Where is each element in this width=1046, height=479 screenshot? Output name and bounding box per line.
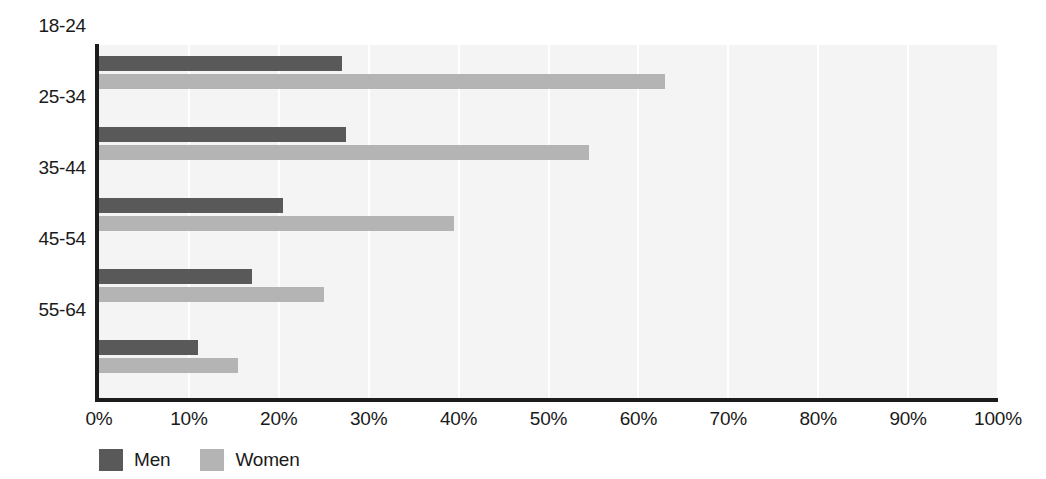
bar-group [99, 340, 998, 373]
bar-chart: 18-2425-3435-4445-5455-64 0%10%20%30%40%… [0, 0, 1046, 479]
bar-men-55-64[interactable] [99, 340, 198, 355]
bar-women-25-34[interactable] [99, 145, 589, 160]
x-tick-label-80: 80% [799, 408, 836, 430]
y-tick-label-25-34: 25-34 [6, 86, 86, 108]
y-tick-label-45-54: 45-54 [6, 228, 86, 250]
y-tick-label-55-64: 55-64 [6, 299, 86, 321]
y-axis-line [95, 44, 99, 402]
legend-swatch-women-icon [200, 449, 224, 471]
chart-legend: Men Women [99, 449, 300, 471]
x-tick-label-70: 70% [710, 408, 747, 430]
legend-item-women[interactable]: Women [200, 449, 299, 471]
bar-group [99, 127, 998, 160]
bar-men-45-54[interactable] [99, 269, 252, 284]
y-tick-label-35-44: 35-44 [6, 157, 86, 179]
bar-women-55-64[interactable] [99, 358, 238, 373]
legend-label-women: Women [235, 449, 299, 471]
bar-group [99, 198, 998, 231]
legend-item-men[interactable]: Men [99, 449, 170, 471]
plot-area [99, 45, 998, 400]
y-axis-tick-labels: 18-2425-3435-4445-5455-64 [0, 0, 86, 355]
bar-group [99, 56, 998, 89]
bar-men-25-34[interactable] [99, 127, 346, 142]
legend-label-men: Men [134, 449, 170, 471]
x-tick-label-0: 0% [85, 408, 112, 430]
x-tick-label-30: 30% [350, 408, 387, 430]
x-axis-line [95, 398, 998, 402]
bar-men-35-44[interactable] [99, 198, 283, 213]
x-tick-label-20: 20% [260, 408, 297, 430]
y-tick-label-18-24: 18-24 [6, 15, 86, 37]
x-tick-label-90: 90% [889, 408, 926, 430]
x-tick-label-10: 10% [170, 408, 207, 430]
x-tick-label-40: 40% [440, 408, 477, 430]
x-tick-label-60: 60% [620, 408, 657, 430]
x-tick-label-100: 100% [974, 408, 1022, 430]
x-tick-label-50: 50% [530, 408, 567, 430]
bar-women-45-54[interactable] [99, 287, 324, 302]
legend-swatch-men-icon [99, 449, 123, 471]
bar-group [99, 269, 998, 302]
bar-women-18-24[interactable] [99, 74, 665, 89]
bar-women-35-44[interactable] [99, 216, 454, 231]
bar-men-18-24[interactable] [99, 56, 342, 71]
